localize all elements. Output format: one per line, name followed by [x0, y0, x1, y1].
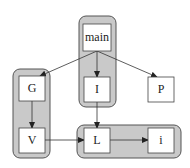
- node-label-i-upper: I: [95, 82, 99, 96]
- node-i-upper[interactable]: I: [84, 77, 110, 102]
- node-label-g: G: [28, 81, 37, 95]
- node-v[interactable]: V: [19, 128, 45, 153]
- node-label-l: L: [93, 133, 100, 147]
- node-l[interactable]: L: [84, 128, 110, 153]
- dependency-graph: main G I P V L i: [0, 0, 190, 168]
- node-label-v: V: [28, 133, 37, 147]
- node-label-main: main: [85, 30, 109, 44]
- node-label-p: P: [158, 82, 165, 96]
- node-p[interactable]: P: [148, 77, 174, 102]
- node-main[interactable]: main: [83, 24, 111, 51]
- node-g[interactable]: G: [19, 76, 45, 101]
- node-i-lower[interactable]: i: [148, 128, 174, 153]
